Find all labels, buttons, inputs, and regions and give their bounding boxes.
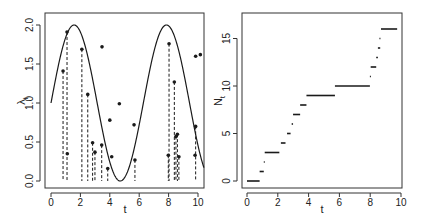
left-plot-frame	[45, 13, 204, 188]
left-y-tick-label: 2.0	[24, 18, 35, 32]
left-panel-intensity-plot: 0246810 0.00.51.01.52.0 t λt	[15, 13, 204, 215]
scatter-point	[167, 42, 171, 46]
right-x-tick-label: 2	[275, 197, 281, 208]
right-y-axis-label-sub: t	[218, 95, 227, 98]
left-x-tick-label: 10	[192, 197, 204, 208]
right-x-axis: 0246810	[244, 193, 407, 208]
figure-canvas: 0246810 0.00.51.01.52.0 t λt 0246810 051…	[0, 0, 427, 223]
left-dashed-event-lines	[63, 32, 196, 181]
scatter-point	[91, 141, 95, 145]
right-y-axis-label-main: N	[212, 98, 224, 106]
right-y-axis: 051015	[221, 33, 237, 184]
scatter-point	[177, 155, 181, 159]
right-y-axis-label: Nt	[212, 95, 227, 106]
scatter-point	[86, 93, 90, 97]
scatter-point	[106, 167, 110, 171]
left-x-tick-label: 8	[166, 197, 172, 208]
right-x-tick-label: 0	[244, 197, 250, 208]
scatter-point	[199, 53, 203, 57]
scatter-point	[100, 45, 104, 49]
left-y-tick-label: 0.0	[24, 174, 35, 188]
left-scatter-points	[61, 30, 202, 170]
scatter-point	[93, 150, 97, 154]
scatter-point	[193, 153, 197, 157]
left-x-tick-label: 2	[78, 197, 84, 208]
scatter-point	[110, 155, 114, 159]
right-step-segments	[247, 29, 397, 181]
right-panel-counting-process-plot: 0246810 051015 t Nt	[212, 13, 407, 215]
scatter-point	[66, 152, 70, 156]
right-y-tick-label: 5	[221, 130, 232, 136]
scatter-point	[108, 118, 112, 122]
scatter-point	[132, 123, 136, 127]
scatter-point	[80, 47, 84, 51]
right-plot-frame	[242, 13, 402, 188]
scatter-point	[173, 80, 177, 84]
left-y-tick-label: 0.5	[24, 135, 35, 149]
left-x-tick-label: 4	[107, 197, 113, 208]
intensity-curve	[51, 25, 204, 181]
right-y-tick-label: 10	[221, 80, 232, 92]
scatter-point	[118, 102, 122, 106]
right-x-tick-label: 10	[395, 197, 407, 208]
right-x-tick-label: 8	[367, 197, 373, 208]
scatter-point	[61, 69, 65, 73]
scatter-point	[65, 30, 69, 34]
left-y-tick-label: 1.5	[24, 57, 35, 71]
scatter-point	[176, 132, 180, 136]
scatter-point	[100, 143, 104, 147]
right-x-tick-label: 4	[306, 197, 312, 208]
right-y-tick-label: 15	[221, 33, 232, 45]
scatter-point	[167, 153, 171, 157]
left-x-tick-label: 6	[136, 197, 142, 208]
scatter-point	[194, 54, 198, 58]
scatter-point	[133, 158, 137, 162]
right-x-axis-label: t	[320, 203, 323, 215]
left-x-axis-label: t	[123, 203, 126, 215]
scatter-point	[194, 125, 198, 129]
right-y-tick-label: 0	[221, 178, 232, 184]
figure: 0246810 0.00.51.01.52.0 t λt 0246810 051…	[0, 0, 427, 223]
right-x-tick-label: 6	[337, 197, 343, 208]
left-x-tick-label: 0	[48, 197, 54, 208]
